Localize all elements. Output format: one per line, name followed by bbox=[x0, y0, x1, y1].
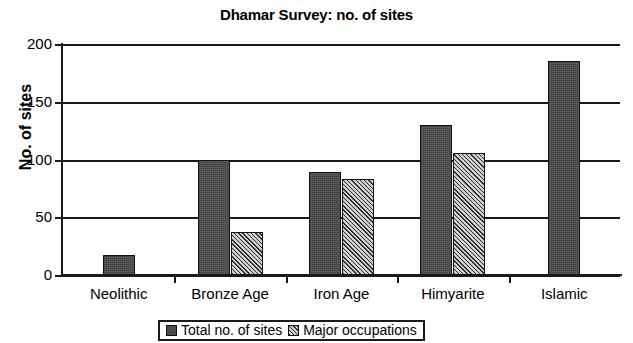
legend-label-1: Total no. of sites bbox=[181, 323, 282, 338]
chart-title: Dhamar Survey: no. of sites bbox=[0, 6, 633, 23]
x-category-label-iron-age: Iron Age bbox=[286, 285, 397, 302]
legend-label-2: Major occupations bbox=[303, 323, 417, 338]
x-category-label-islamic: Islamic bbox=[509, 285, 620, 302]
bar-neolithic-series1 bbox=[103, 255, 135, 275]
bars-layer bbox=[63, 44, 620, 275]
x-tick-mark-1 bbox=[174, 275, 176, 283]
x-category-label-bronze-age: Bronze Age bbox=[174, 285, 285, 302]
legend-swatch-2 bbox=[288, 325, 299, 336]
y-axis-title: No. of sites bbox=[17, 57, 35, 197]
y-tick-label-100: 100 bbox=[4, 152, 52, 167]
chart-legend: Total no. of sitesMajor occupations bbox=[158, 320, 425, 341]
legend-swatch-1 bbox=[166, 325, 177, 336]
bar-bronze-age-series2 bbox=[231, 232, 263, 275]
x-category-label-himyarite: Himyarite bbox=[397, 285, 508, 302]
chart-container: Dhamar Survey: no. of sites No. of sites… bbox=[0, 0, 633, 343]
x-tick-mark-2 bbox=[286, 275, 288, 283]
y-tick-label-150: 150 bbox=[4, 94, 52, 109]
bar-himyarite-series1 bbox=[420, 125, 452, 275]
x-category-label-neolithic: Neolithic bbox=[63, 285, 174, 302]
bar-iron-age-series1 bbox=[309, 172, 341, 275]
legend-entry-1: Total no. of sites bbox=[166, 323, 282, 338]
bar-iron-age-series2 bbox=[342, 179, 374, 275]
bar-bronze-age-series1 bbox=[198, 160, 230, 276]
y-tick-label-0: 0 bbox=[4, 267, 52, 282]
bar-himyarite-series2 bbox=[453, 153, 485, 275]
bar-islamic-series1 bbox=[548, 61, 580, 275]
x-tick-mark-3 bbox=[397, 275, 399, 283]
legend-entry-2: Major occupations bbox=[288, 323, 417, 338]
y-tick-label-50: 50 bbox=[4, 209, 52, 224]
y-tick-label-200: 200 bbox=[4, 36, 52, 51]
x-tick-mark-4 bbox=[509, 275, 511, 283]
